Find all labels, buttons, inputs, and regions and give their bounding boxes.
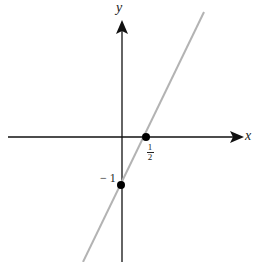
y-intercept-point [117, 181, 125, 189]
graph-canvas [0, 0, 254, 262]
x-axis-label: x [245, 128, 251, 144]
y-axis-label: y [116, 0, 122, 16]
x-intercept-label: 1 2 [145, 143, 155, 162]
fraction-denominator: 2 [145, 153, 155, 162]
fraction-numerator: 1 [145, 143, 155, 152]
x-intercept-point [142, 133, 150, 141]
y-intercept-label: − 1 [100, 171, 116, 186]
